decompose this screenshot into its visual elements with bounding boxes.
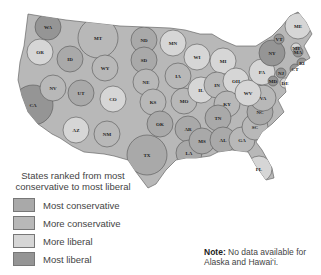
legend-label: Most liberal (43, 254, 92, 265)
state-label: NJ (278, 71, 285, 76)
legend-swatch (13, 234, 35, 248)
state-label: FL (256, 167, 263, 172)
state-label: MS (198, 139, 206, 144)
state-label: IN (214, 83, 220, 88)
state-label: UT (78, 91, 86, 96)
legend-item-most-conservative: Most conservative (8, 196, 138, 214)
state-label: NV (49, 86, 57, 91)
legend-swatch (13, 198, 35, 212)
legend-item-most-liberal: Most liberal (8, 250, 138, 268)
state-label: MO (180, 99, 189, 104)
state-label: MN (169, 41, 178, 46)
state-label: LA (186, 151, 193, 156)
state-label: VA (260, 96, 267, 101)
legend: States ranked from most conservative to … (8, 170, 138, 268)
state-label: DE (282, 81, 290, 86)
state-label: OH (232, 79, 240, 84)
note: Note: No data available for Alaska and H… (204, 247, 321, 267)
state-label: OR (36, 50, 44, 55)
note-label: Note: (204, 247, 226, 257)
state-label: MD (269, 79, 278, 84)
legend-label: More conservative (43, 218, 121, 229)
state-label: IL (198, 88, 204, 93)
legend-title: States ranked from most conservative to … (8, 170, 138, 192)
state-label: SC (252, 125, 259, 130)
legend-item-more-conservative: More conservative (8, 214, 138, 232)
state-label: TX (144, 153, 151, 158)
legend-swatch (13, 216, 35, 230)
legend-label: Most conservative (43, 200, 120, 211)
state-label: VT (276, 37, 284, 42)
state-label: ID (67, 57, 73, 62)
state-label: CO (109, 97, 117, 102)
state-label: SD (141, 58, 148, 63)
state-label: KS (150, 100, 157, 105)
state-label: OK (156, 122, 164, 127)
state-label: WI (194, 55, 201, 60)
state-label: GA (238, 138, 246, 143)
state-label: KY (223, 102, 231, 107)
state-label: ME (294, 24, 303, 29)
state-label: IA (175, 74, 181, 79)
state-label: RI (299, 61, 305, 66)
state-label: ND (140, 38, 148, 43)
state-label: WV (244, 91, 253, 96)
legend-item-more-liberal: More liberal (8, 232, 138, 250)
state-label: CT (292, 67, 300, 72)
state-label: MT (94, 36, 103, 41)
state-label: AZ (73, 128, 81, 133)
state-label: NM (103, 132, 112, 137)
state-label: TN (215, 116, 222, 121)
state-label: NY (268, 51, 276, 56)
legend-swatch (13, 252, 35, 266)
state-label: NE (143, 80, 151, 85)
state-label: NC (256, 110, 264, 115)
state-label: AL (220, 138, 228, 143)
state-label: WA (44, 25, 52, 30)
state-label: MI (220, 59, 227, 64)
state-label: AR (184, 127, 192, 132)
state-label: CA (29, 103, 37, 108)
state-label: MA (294, 50, 303, 55)
legend-label: More liberal (43, 236, 93, 247)
state-label: PA (259, 70, 266, 75)
state-label: WY (101, 66, 110, 71)
